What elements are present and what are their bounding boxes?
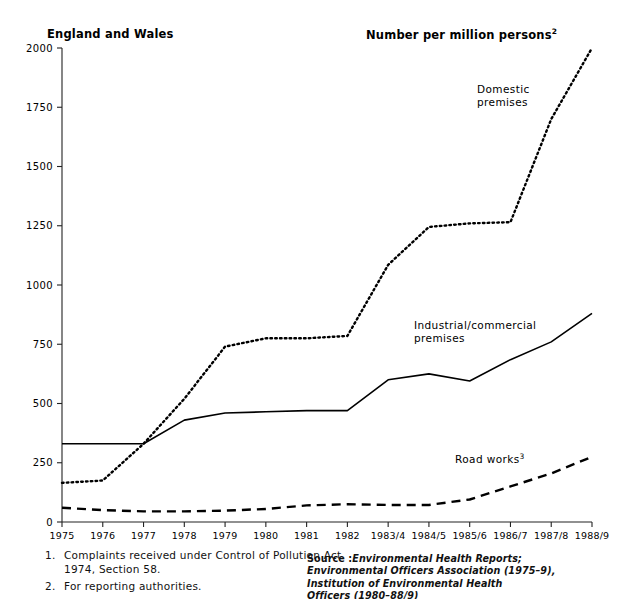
y-axis-ticks: 025050075010001250150017502000 (26, 43, 62, 528)
annotation-domestic-line2: premises (477, 96, 528, 108)
x-tick-label: 1975 (50, 530, 75, 541)
y-tick-label: 1250 (26, 220, 53, 231)
y-tick-label: 1000 (26, 280, 53, 291)
annotation-domestic-line1: Domestic (477, 83, 530, 95)
x-tick-label: 1981 (294, 530, 319, 541)
footnote-number: 2. (45, 580, 64, 594)
annotation-roadworks-text: Road works (455, 453, 520, 465)
annotation-roadworks: Road works3 (455, 452, 525, 465)
x-tick-label: 1979 (213, 530, 238, 541)
chart-page: England and Wales Number per million per… (0, 0, 620, 599)
line-chart: 025050075010001250150017502000 197519761… (0, 0, 620, 545)
footnotes-list: 1. Complaints received under Control of … (45, 549, 345, 599)
series-line-domestic-premises (62, 48, 592, 483)
x-tick-label: 1980 (253, 530, 278, 541)
source-publication: Environmental Health Reports; (352, 553, 522, 564)
y-tick-label: 2000 (26, 43, 53, 54)
y-tick-label: 1750 (26, 102, 53, 113)
source-line-3: Institution of Environmental Health (307, 578, 607, 590)
source-note: Source :Environmental Health Reports; En… (307, 553, 607, 599)
source-line-4: Officers (1980–88/9) (307, 590, 607, 599)
x-axis-ticks: 197519761977197819791980198119821983/419… (50, 522, 610, 541)
y-tick-label: 250 (33, 457, 53, 468)
source-label: Source : (307, 553, 352, 564)
chart-axes: 025050075010001250150017502000 197519761… (26, 43, 609, 541)
series-line-industrial-commercial-premises (62, 313, 592, 443)
annotation-roadworks-footnote-marker: 3 (520, 452, 525, 461)
x-tick-label: 1977 (131, 530, 156, 541)
annotation-industrial-line2: premises (414, 332, 465, 344)
x-tick-label: 1987/8 (534, 530, 569, 541)
x-tick-label: 1978 (172, 530, 197, 541)
x-tick-label: 1984/5 (412, 530, 447, 541)
x-tick-label: 1983/4 (371, 530, 406, 541)
y-tick-label: 750 (33, 339, 53, 350)
x-tick-label: 1986/7 (493, 530, 528, 541)
x-tick-label: 1982 (335, 530, 360, 541)
footnote-item: 1. Complaints received under Control of … (45, 549, 345, 577)
chart-annotations: Domestic premises Industrial/commercial … (414, 83, 536, 465)
y-tick-label: 500 (33, 398, 53, 409)
x-tick-label: 1988/9 (575, 530, 610, 541)
annotation-industrial-line1: Industrial/commercial (414, 319, 536, 331)
x-tick-label: 1985/6 (452, 530, 487, 541)
source-line-1: Source :Environmental Health Reports; (307, 553, 607, 565)
y-tick-label: 1500 (26, 161, 53, 172)
footnote-item: 2. For reporting authorities. (45, 580, 345, 594)
footnote-number: 1. (45, 549, 64, 577)
x-tick-label: 1976 (90, 530, 115, 541)
y-tick-label: 0 (46, 517, 53, 528)
footnote-text: Complaints received under Control of Pol… (64, 549, 345, 577)
source-line-2: Environmental Officers Association (1975… (307, 565, 607, 577)
chart-svg: 025050075010001250150017502000 197519761… (0, 0, 620, 545)
chart-series-layer (62, 48, 592, 511)
footnote-text: For reporting authorities. (64, 580, 345, 594)
